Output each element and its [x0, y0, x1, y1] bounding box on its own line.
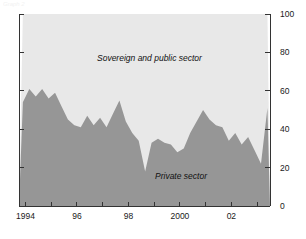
chart-figure: Graph 2 020406080100 19949698200002 Sove…	[0, 0, 306, 239]
series-label-private: Private sector	[155, 172, 207, 181]
x-tick-label-1996: 96	[57, 212, 97, 221]
y-tick-label-100: 100	[280, 10, 294, 19]
x-tick-label-1998: 98	[108, 212, 148, 221]
series-areas	[19, 14, 270, 206]
caption-fragment: Graph 2	[3, 0, 73, 8]
x-tick-label-2000: 2000	[160, 212, 200, 221]
y-tick-label-0: 0	[280, 202, 285, 211]
x-tick-label-1994: 1994	[5, 212, 45, 221]
series-label-sovereign: Sovereign and public sector	[97, 54, 202, 63]
x-tick-label-2002: 02	[211, 212, 251, 221]
chart-svg	[0, 8, 306, 216]
y-tick-label-20: 20	[280, 164, 289, 173]
y-tick-label-40: 40	[280, 125, 289, 134]
y-tick-label-60: 60	[280, 87, 289, 96]
y-tick-label-80: 80	[280, 48, 289, 57]
plot-area	[0, 8, 306, 216]
